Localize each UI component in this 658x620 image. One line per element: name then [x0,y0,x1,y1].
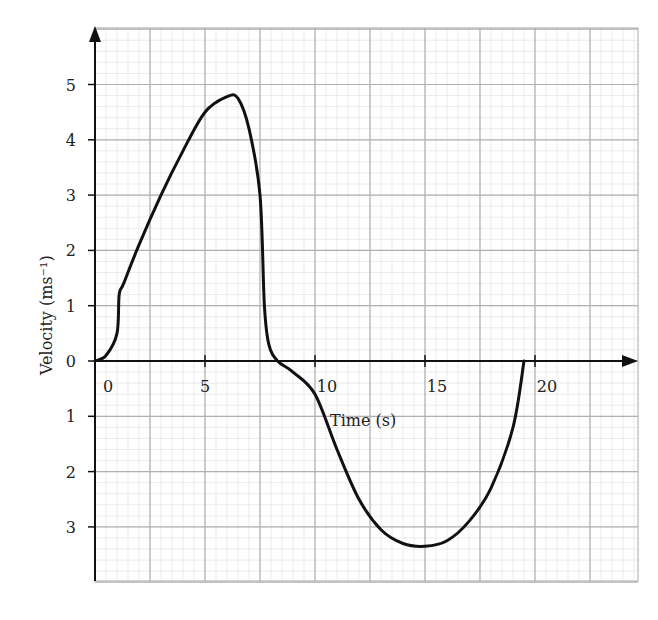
minor-grid [95,28,638,581]
y-tick-label: 2 [66,463,76,482]
y-axis-title: Velocity (ms⁻¹) [37,255,56,376]
y-tick-label: 4 [66,131,76,150]
x-tick-label: 15 [427,377,447,396]
x-axis-title: Time (s) [330,411,396,430]
x-tick-label: 20 [537,377,557,396]
x-tick-label: 5 [200,377,210,396]
x-axis-arrow-icon [622,355,638,367]
y-tick-label: 3 [66,186,76,205]
velocity-curve [95,95,524,547]
y-tick-label: 1 [66,297,76,316]
major-grid [95,28,638,582]
y-ticks: 543210123 [66,76,95,537]
y-tick-label: 3 [66,518,76,537]
y-tick-label: 5 [66,76,76,95]
plot-border [95,28,638,581]
velocity-time-chart: 543210123 05101520 Time (s) Velocity (ms… [0,0,658,620]
y-tick-label: 2 [66,241,76,260]
y-tick-label: 1 [66,407,76,426]
x-tick-label: 10 [317,377,337,396]
x-tick-label: 0 [103,377,113,396]
y-tick-label: 0 [66,352,76,371]
